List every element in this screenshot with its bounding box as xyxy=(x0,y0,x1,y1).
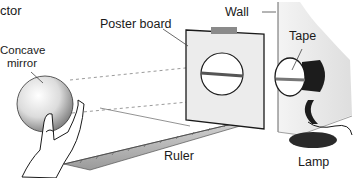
floor-line xyxy=(100,108,190,126)
label-lamp: Lamp xyxy=(298,156,329,169)
poster-board xyxy=(186,27,264,129)
label-tape: Tape xyxy=(289,30,316,43)
label-poster-board: Poster board xyxy=(100,18,172,31)
label-concave-mirror-line1: Concave xyxy=(0,44,45,56)
label-concave-mirror-line2: mirror xyxy=(7,57,37,69)
board-tape xyxy=(211,27,237,34)
title-fragment: ctor xyxy=(0,4,22,17)
label-concave-mirror: Concave mirror xyxy=(0,44,44,70)
ruler xyxy=(64,124,240,170)
label-wall: Wall xyxy=(225,6,249,19)
label-ruler: Ruler xyxy=(164,150,194,163)
